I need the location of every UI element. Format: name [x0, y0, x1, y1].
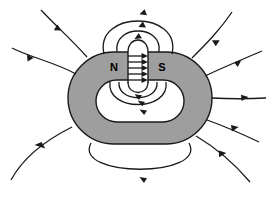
outer-field-line — [212, 95, 266, 101]
top-field-arc — [128, 33, 148, 52]
outer-field-line — [41, 10, 87, 57]
field-line-canvas: N S — [0, 0, 268, 205]
arrow-head — [138, 22, 146, 28]
outer-field-line — [192, 12, 232, 58]
outer-field-line — [196, 136, 250, 182]
arrow-head — [140, 9, 148, 15]
outer-field-line — [11, 127, 72, 180]
south-pole-label: S — [158, 61, 165, 73]
arrow-head — [54, 25, 62, 31]
top-field-arcs — [103, 9, 173, 54]
arrow-head — [134, 33, 142, 39]
arrow-head — [212, 40, 220, 46]
outer-bottom-loop — [89, 143, 191, 183]
outer-field-line — [12, 48, 76, 74]
magnetic-field-diagram: N S — [0, 0, 268, 205]
outer-field-line — [207, 120, 259, 142]
arrow-head — [139, 177, 147, 183]
arrow-head — [241, 95, 248, 101]
outer-field-line — [205, 51, 262, 76]
north-pole-label: N — [110, 61, 118, 73]
